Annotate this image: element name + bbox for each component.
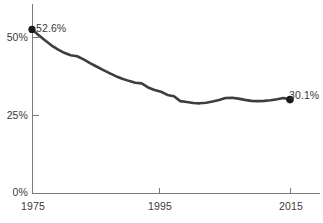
line-chart: 50% 25% 0% 1975 1995 2015 52.6% 30.1%	[0, 0, 323, 223]
start-value-label: 52.6%	[36, 22, 66, 34]
x-axis-tick-label-1975: 1975	[11, 200, 55, 212]
x-axis-tick-label-2015: 2015	[269, 200, 313, 212]
y-axis-tick-label-50: 50%	[0, 31, 28, 43]
y-axis-tick-label-25: 25%	[0, 109, 28, 121]
start-point-marker	[28, 26, 35, 33]
series-line-share	[32, 29, 290, 103]
x-axis-tick-label-1995: 1995	[138, 200, 182, 212]
y-axis-tick-label-0: 0%	[0, 186, 28, 198]
end-value-label: 30.1%	[289, 89, 319, 101]
